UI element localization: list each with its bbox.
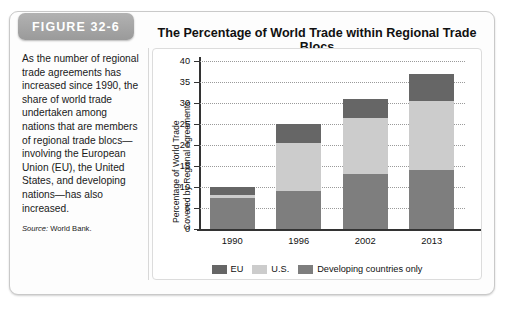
bar-segment[interactable] <box>210 198 255 230</box>
legend-swatch <box>252 265 267 274</box>
legend-label: Developing countries only <box>317 264 422 274</box>
legend-item[interactable]: U.S. <box>252 264 289 274</box>
legend-item[interactable]: EU <box>212 264 244 274</box>
chart-axes-area: 0510152025303540 1990199620022013 <box>199 61 465 229</box>
y-axis-tick-label: 25 <box>180 119 190 129</box>
figure-source-text: World Bank. <box>50 224 91 233</box>
x-axis-tick-label: 2002 <box>355 235 376 246</box>
x-axis-tick-label: 2013 <box>421 235 442 246</box>
legend-item[interactable]: Developing countries only <box>298 264 422 274</box>
x-axis-tick-label: 1996 <box>288 235 309 246</box>
figure-caption-column: As the number of regional trade agreemen… <box>22 52 140 233</box>
legend-swatch <box>298 265 313 274</box>
legend-swatch <box>212 265 227 274</box>
y-axis-tick <box>194 229 200 230</box>
bar-group[interactable] <box>276 124 321 229</box>
bar-group[interactable] <box>343 99 388 229</box>
y-axis-tick-label: 5 <box>185 203 190 213</box>
figure-source-line: Source: World Bank. <box>22 224 140 233</box>
bar-segment[interactable] <box>276 124 321 143</box>
figure-caption-text: As the number of regional trade agreemen… <box>22 52 140 215</box>
y-axis-tick-label: 15 <box>180 161 190 171</box>
chart-bars <box>199 61 465 229</box>
bar-segment[interactable] <box>343 118 388 175</box>
bar-segment[interactable] <box>409 101 454 170</box>
figure-number-tab: FIGURE 32-6 <box>18 13 134 40</box>
x-axis-tick-label: 1990 <box>222 235 243 246</box>
legend-label: U.S. <box>271 264 289 274</box>
y-axis-tick-label: 40 <box>180 56 190 66</box>
column-divider <box>148 48 149 280</box>
bar-segment[interactable] <box>409 74 454 101</box>
y-axis-tick-label: 30 <box>180 98 190 108</box>
y-axis-tick-label: 35 <box>180 77 190 87</box>
chart-legend: EUU.S.Developing countries only <box>152 264 482 274</box>
figure-source-prefix: Source: <box>22 224 48 233</box>
legend-label: EU <box>231 264 244 274</box>
bar-segment[interactable] <box>276 191 321 229</box>
y-axis-tick-label: 0 <box>185 224 190 234</box>
y-axis-tick-label: 20 <box>180 140 190 150</box>
bar-segment[interactable] <box>343 174 388 229</box>
bar-segment[interactable] <box>210 187 255 195</box>
bar-segment[interactable] <box>343 99 388 118</box>
y-axis-title-line-1: Percentage of World Trade <box>171 120 181 223</box>
figure-number-label: FIGURE 32-6 <box>32 20 120 34</box>
bar-group[interactable] <box>409 74 454 229</box>
bar-segment[interactable] <box>409 170 454 229</box>
chart-plot-panel: Percentage of World Trade Covered by Reg… <box>152 48 482 280</box>
bar-segment[interactable] <box>276 143 321 191</box>
x-axis-line <box>197 229 481 231</box>
figure-root: FIGURE 32-6 As the number of regional tr… <box>0 0 506 310</box>
y-axis-tick-label: 10 <box>180 182 190 192</box>
bar-group[interactable] <box>210 187 255 229</box>
